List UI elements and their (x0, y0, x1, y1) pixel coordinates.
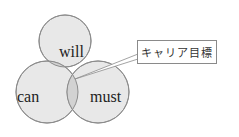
label-must: must (90, 89, 121, 105)
label-will: will (59, 44, 84, 60)
callout-label: キャリア目標 (141, 44, 213, 60)
venn-diagram (0, 0, 239, 137)
label-can: can (17, 89, 39, 105)
callout-box: キャリア目標 (137, 40, 217, 64)
